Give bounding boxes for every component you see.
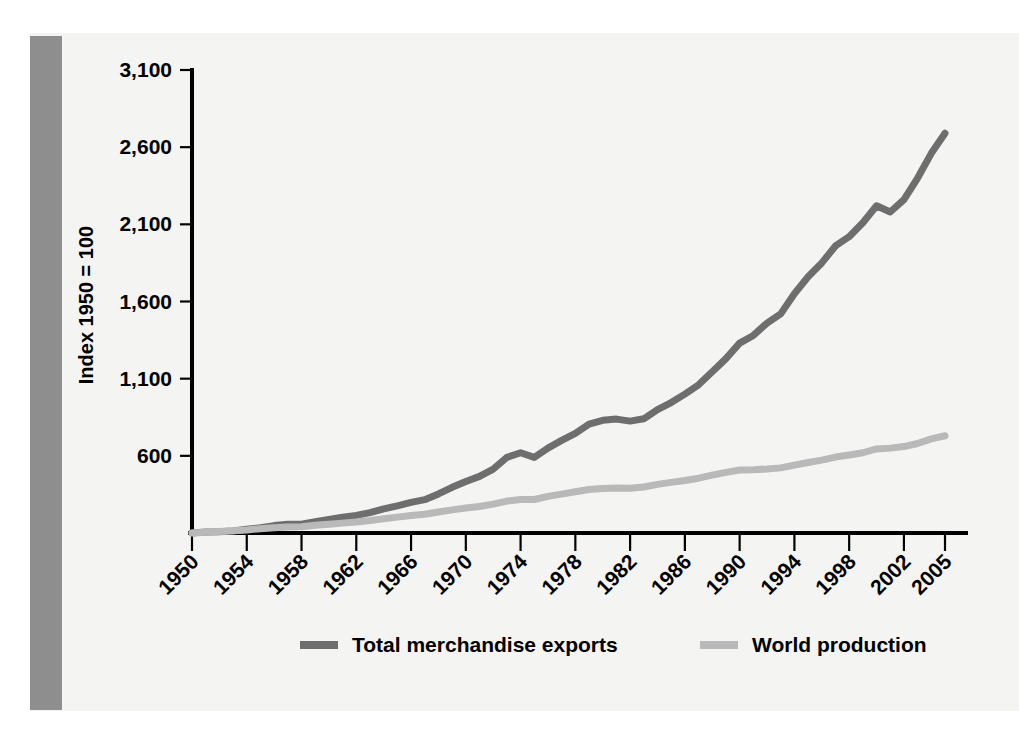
y-axis-title: Index 1950 = 100: [75, 226, 97, 384]
x-tick-label: 1962: [318, 550, 367, 599]
line-chart: 6001,1001,6002,1002,6003,100 19501954195…: [0, 0, 1019, 733]
y-tick-label: 1,100: [119, 367, 172, 390]
x-tick-label: 1970: [427, 550, 476, 599]
y-tick-label: 2,100: [119, 212, 172, 235]
x-tick-label: 1986: [646, 550, 695, 599]
x-tick-label: 1990: [701, 550, 750, 599]
y-tick-label: 1,600: [119, 290, 172, 313]
chart-legend: Total merchandise exportsWorld productio…: [300, 633, 927, 656]
legend-label: Total merchandise exports: [352, 633, 618, 656]
x-tick-label: 1950: [154, 550, 203, 599]
x-tick-label: 1974: [482, 549, 532, 599]
x-tick-label: 1998: [811, 549, 861, 599]
series-line: [192, 436, 945, 533]
x-tick-label: 1982: [592, 550, 641, 599]
chart-page: 6001,1001,6002,1002,6003,100 19501954195…: [0, 0, 1019, 733]
x-tick-label: 1966: [373, 550, 422, 599]
x-tick-label: 2002: [865, 550, 914, 599]
series-line: [192, 133, 945, 533]
series-lines: [192, 133, 945, 533]
y-axis-ticks: 6001,1001,6002,1002,6003,100: [119, 58, 192, 467]
y-tick-label: 3,100: [119, 58, 172, 81]
y-tick-label: 600: [137, 444, 172, 467]
x-tick-label: 1958: [263, 549, 313, 599]
y-tick-label: 2,600: [119, 135, 172, 158]
legend-label: World production: [752, 633, 927, 656]
x-tick-label: 2005: [907, 549, 957, 599]
x-tick-label: 1978: [537, 549, 587, 599]
x-axis-ticks: 1950195419581962196619701974197819821986…: [154, 533, 957, 599]
x-tick-label: 1954: [208, 549, 258, 599]
x-tick-label: 1994: [756, 549, 806, 599]
